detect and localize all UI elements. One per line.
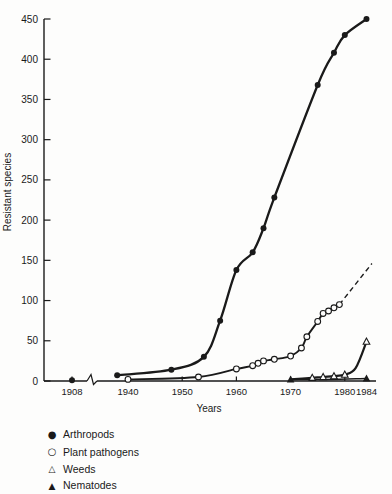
x-tick-label: 1980 — [334, 386, 355, 397]
legend-label-arthropods: Arthropods — [63, 428, 114, 440]
x-tick-label: 1960 — [226, 386, 247, 397]
filled-circle-icon: ● — [48, 429, 57, 440]
x-tick-label: 1950 — [172, 386, 193, 397]
resistance-chart: 0501001502002503003504004501908194019501… — [0, 0, 392, 494]
plant-pathogens-marker — [288, 353, 294, 359]
y-tick-label: 100 — [21, 295, 38, 306]
plant-pathogens-marker — [299, 345, 305, 351]
x-tick-label: 1940 — [117, 386, 138, 397]
y-tick-label: 450 — [21, 14, 38, 25]
plant-pathogens-marker — [326, 308, 332, 314]
x-axis-title: Years — [196, 403, 221, 414]
y-axis-title: Resistant species — [2, 153, 13, 231]
plant-pathogens-marker — [125, 376, 131, 382]
arthropods-marker — [271, 195, 277, 201]
plant-pathogens-marker — [304, 334, 310, 340]
weeds-marker — [363, 338, 370, 344]
x-tick-label: 1970 — [280, 386, 301, 397]
y-tick-label: 350 — [21, 94, 38, 105]
plant-pathogens-projection-dashed — [339, 264, 372, 305]
x-tick-label: 1984 — [356, 386, 377, 397]
arthropods-marker — [201, 354, 207, 360]
open-triangle-icon: △ — [49, 464, 56, 474]
y-tick-label: 200 — [21, 215, 38, 226]
arthropods-marker — [315, 82, 321, 88]
y-tick-label: 250 — [21, 174, 38, 185]
filled-triangle-icon: ▲ — [49, 481, 56, 491]
arthropods-curve — [117, 19, 366, 375]
plot-area: 0501001502002503003504004501908194019501… — [21, 14, 377, 397]
arthropods-marker — [261, 225, 267, 231]
y-tick-label: 150 — [21, 255, 38, 266]
y-tick-label: 300 — [21, 134, 38, 145]
plant-pathogens-marker — [271, 356, 277, 362]
resistance-chart-figure: 0501001502002503003504004501908194019501… — [0, 0, 392, 494]
legend: ● Arthropods ○ Plant pathogens △ Weeds ▲… — [48, 428, 139, 491]
plant-pathogens-marker — [336, 302, 342, 308]
plant-pathogens-marker — [331, 305, 337, 311]
legend-label-weeds: Weeds — [63, 463, 96, 475]
nematodes-curve — [291, 379, 367, 380]
arthropods-marker — [342, 32, 348, 38]
arthropods-marker — [363, 16, 369, 22]
arthropods-marker — [331, 50, 337, 56]
y-tick-label: 400 — [21, 54, 38, 65]
open-circle-icon: ○ — [48, 446, 57, 457]
legend-label-nematodes: Nematodes — [63, 479, 117, 491]
arthropods-marker — [250, 249, 256, 255]
plant-pathogens-marker — [315, 319, 321, 325]
plant-pathogens-marker — [196, 374, 202, 380]
legend-label-plant-pathogens: Plant pathogens — [63, 446, 139, 458]
arthropods-marker — [114, 372, 120, 378]
y-tick-label: 50 — [27, 335, 39, 346]
y-tick-label: 0 — [32, 376, 38, 387]
plant-pathogens-marker — [261, 358, 267, 364]
arthropods-marker — [168, 367, 174, 373]
arthropods-marker — [69, 377, 75, 383]
x-tick-label: 1908 — [61, 386, 82, 397]
plant-pathogens-marker — [234, 366, 240, 372]
arthropods-marker — [217, 318, 223, 324]
axis-break-icon — [87, 375, 97, 385]
arthropods-marker — [233, 267, 239, 273]
